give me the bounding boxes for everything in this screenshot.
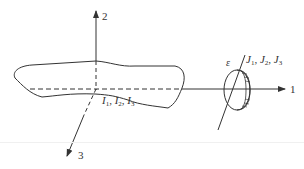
diagram-canvas: 2 1 3 I1, I2, I3 J1, J2, J3 ε (0, 0, 304, 169)
rotor-inertia-label: J1, J2, J3 (246, 54, 282, 69)
axis-3-label: 3 (78, 150, 84, 161)
axis-3-dashed (84, 89, 96, 115)
rigid-body-diagram (0, 0, 304, 169)
axis-1-label: 1 (290, 84, 296, 95)
divider (0, 142, 304, 143)
body-inertia-label: I1, I2, I3 (102, 95, 135, 110)
epsilon-label: ε (226, 57, 230, 68)
axis-2-label: 2 (102, 11, 108, 22)
rigid-body-outline (14, 61, 184, 108)
rotor-spin-axis (218, 55, 245, 130)
